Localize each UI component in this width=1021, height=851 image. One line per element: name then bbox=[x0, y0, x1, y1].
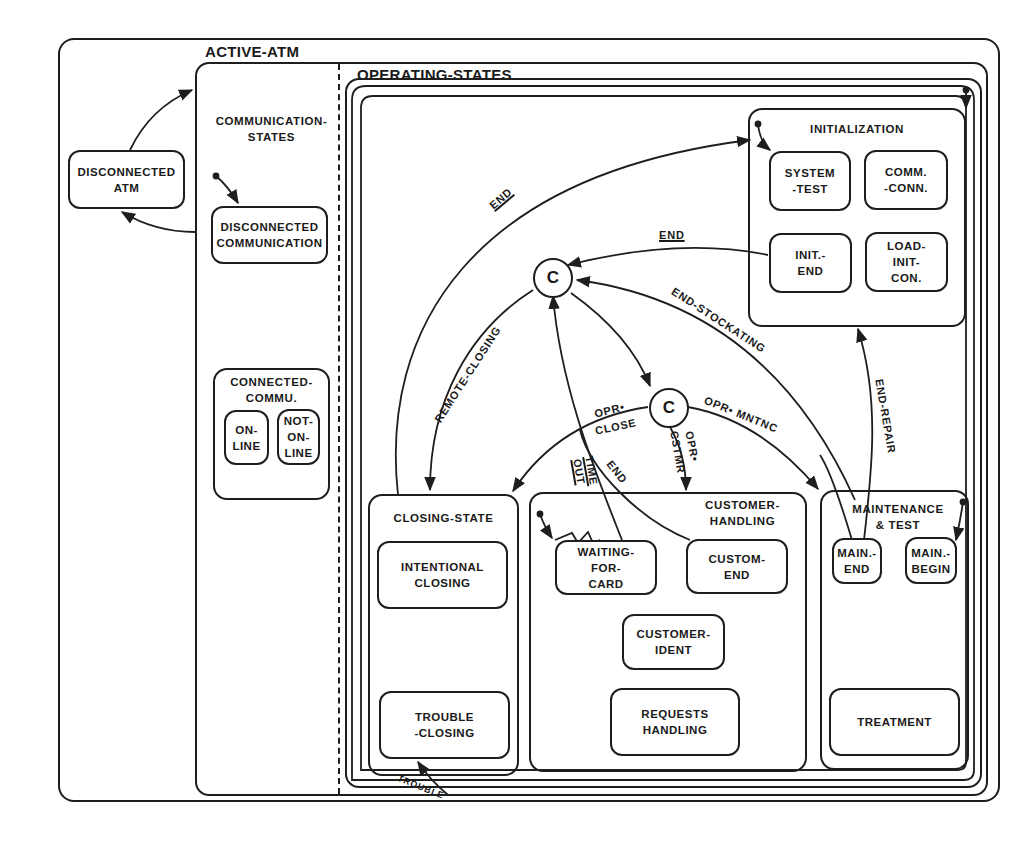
communication-states-label: COMMUNICATION- STATES bbox=[204, 113, 339, 145]
state-not-on-line[interactable]: NOT- ON- LINE bbox=[277, 409, 320, 465]
state-waiting-for-card[interactable]: WAITING- FOR- CARD bbox=[555, 540, 657, 595]
initialization-label: INITIALIZATION bbox=[748, 121, 966, 137]
condition-connector-2[interactable]: C bbox=[649, 388, 689, 428]
closing-state-label: CLOSING-STATE bbox=[368, 510, 519, 526]
customer-handling-label: CUSTOMER- HANDLING bbox=[690, 497, 795, 529]
state-disconnected-communication[interactable]: DISCONNECTED COMMUNICATION bbox=[211, 206, 328, 264]
state-trouble-closing[interactable]: TROUBLE -CLOSING bbox=[379, 691, 510, 759]
state-comm-conn[interactable]: COMM. -CONN. bbox=[864, 150, 948, 210]
state-treatment[interactable]: TREATMENT bbox=[829, 688, 960, 756]
state-main-begin[interactable]: MAIN.- BEGIN bbox=[905, 537, 957, 584]
transition-label-end-init: END bbox=[659, 229, 685, 241]
state-requests-handling[interactable]: REQUESTS HANDLING bbox=[610, 688, 740, 756]
state-system-test[interactable]: SYSTEM -TEST bbox=[769, 151, 851, 211]
state-load-init-con[interactable]: LOAD- INIT- CON. bbox=[865, 232, 948, 292]
concurrency-divider bbox=[338, 64, 340, 794]
state-main-end[interactable]: MAIN.- END bbox=[832, 538, 882, 584]
state-customer-ident[interactable]: CUSTOMER- IDENT bbox=[622, 614, 725, 670]
connected-commu-label: CONNECTED- COMMU. bbox=[213, 374, 330, 406]
state-init-end[interactable]: INIT.- END bbox=[769, 233, 852, 293]
maintenance-test-label: MAINTENANCE & TEST bbox=[838, 501, 958, 533]
state-initialization[interactable] bbox=[748, 108, 966, 327]
condition-connector-1[interactable]: C bbox=[533, 258, 573, 298]
state-on-line[interactable]: ON- LINE bbox=[224, 410, 269, 465]
state-custom-end[interactable]: CUSTOM- END bbox=[686, 539, 788, 594]
state-disconnected-atm[interactable]: DISCONNECTED ATM bbox=[68, 150, 185, 209]
state-intentional-closing[interactable]: INTENTIONAL CLOSING bbox=[377, 541, 508, 609]
active-atm-label: ACTIVE-ATM bbox=[205, 43, 299, 60]
